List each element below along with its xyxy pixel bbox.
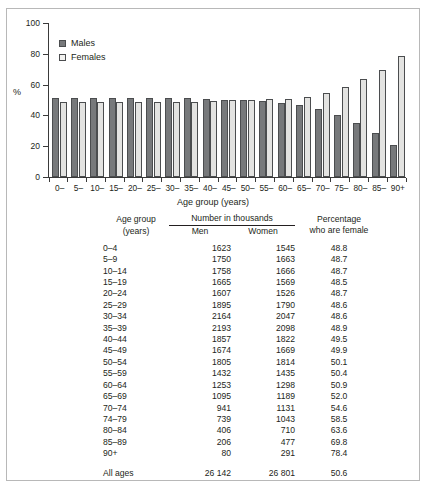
header-age-group-unit: (years) xyxy=(103,226,169,238)
table-row: 55–591432143550.4 xyxy=(103,368,383,379)
table-row: 5–91750166348.7 xyxy=(103,254,383,265)
table-row: 30–342164204748.6 xyxy=(103,311,383,322)
cell-women: 1545 xyxy=(231,243,295,254)
y-tick xyxy=(43,177,48,178)
cell-percentage: 49.5 xyxy=(295,334,383,345)
bar-male xyxy=(184,98,191,177)
cell-percentage: 48.8 xyxy=(295,243,383,254)
cell-men: 1623 xyxy=(169,243,231,254)
cell-women: 1435 xyxy=(231,368,295,379)
bar-female xyxy=(154,102,161,177)
bar-female xyxy=(323,93,330,177)
female-swatch-icon xyxy=(59,54,66,61)
y-tick-label: 100 xyxy=(7,19,40,28)
cell-men: 739 xyxy=(169,414,231,425)
header-number-in-thousands: Number in thousands xyxy=(169,213,295,226)
bar-male xyxy=(203,99,210,177)
bar-group xyxy=(389,23,408,177)
cell-age: 15–19 xyxy=(103,277,169,288)
cell-percentage: 48.5 xyxy=(295,277,383,288)
bar-group xyxy=(277,23,296,177)
cell-age: 20–24 xyxy=(103,288,169,299)
bar-group xyxy=(202,23,221,177)
cell-men: 1805 xyxy=(169,357,231,368)
table-row: 25–291895179048.6 xyxy=(103,300,383,311)
male-swatch-icon xyxy=(59,40,66,47)
cell-age: 55–59 xyxy=(103,368,169,379)
bar-female xyxy=(285,99,292,177)
x-tick xyxy=(161,178,162,182)
legend-label-males: Males xyxy=(71,38,95,48)
x-tick xyxy=(368,178,369,182)
bar-female xyxy=(304,97,311,177)
header-age-group: Age group xyxy=(103,213,169,226)
cell-women: 2098 xyxy=(231,323,295,334)
cell-percentage: 78.4 xyxy=(295,448,383,459)
x-tick xyxy=(312,178,313,182)
bar-male xyxy=(240,100,247,177)
table-row: 85–8920647769.8 xyxy=(103,437,383,448)
cell-women: 1569 xyxy=(231,277,295,288)
table-row: 90+8029178.4 xyxy=(103,448,383,459)
cell-percentage: 63.6 xyxy=(295,425,383,436)
cell-age: 74–79 xyxy=(103,414,169,425)
bar-female xyxy=(79,102,86,177)
table-row: 74–79739104358.5 xyxy=(103,414,383,425)
x-tick xyxy=(274,178,275,182)
cell-percentage: 69.8 xyxy=(295,437,383,448)
cell-age: 65–69 xyxy=(103,391,169,402)
bar-group xyxy=(220,23,239,177)
table-row: 50–541805181450.1 xyxy=(103,357,383,368)
y-axis-label: % xyxy=(13,87,21,97)
table-row: 0–41623154548.8 xyxy=(103,243,383,254)
bar-male xyxy=(109,98,116,177)
cell-percentage: 48.9 xyxy=(295,323,383,334)
cell-women: 1043 xyxy=(231,414,295,425)
bar-group xyxy=(258,23,277,177)
x-tick xyxy=(49,178,50,182)
x-tick xyxy=(67,178,68,182)
x-tick xyxy=(406,178,407,182)
cell-women: 1822 xyxy=(231,334,295,345)
table-row: 10–141758166648.7 xyxy=(103,266,383,277)
cell-age: All ages xyxy=(103,468,169,479)
bar-female xyxy=(173,102,180,177)
cell-age: 45–49 xyxy=(103,345,169,356)
bar-group xyxy=(314,23,333,177)
cell-women: 1526 xyxy=(231,288,295,299)
cell-men: 2193 xyxy=(169,323,231,334)
cell-percentage: 50.4 xyxy=(295,368,383,379)
cell-women: 1298 xyxy=(231,380,295,391)
cell-women: 1666 xyxy=(231,266,295,277)
bar-male xyxy=(259,101,266,177)
x-axis xyxy=(48,177,406,178)
cell-women: 1131 xyxy=(231,403,295,414)
x-tick xyxy=(199,178,200,182)
header-percentage-line2: who are female xyxy=(295,225,383,236)
bar-male xyxy=(221,100,228,177)
table-row: 65–691095118952.0 xyxy=(103,391,383,402)
cell-percentage: 50.6 xyxy=(295,468,383,479)
cell-percentage: 49.9 xyxy=(295,345,383,356)
bar-female xyxy=(135,102,142,177)
table-row: 70–74941113154.6 xyxy=(103,403,383,414)
x-tick xyxy=(293,178,294,182)
table-row: 15–191665156948.5 xyxy=(103,277,383,288)
figure-panel: 020406080100 % 0–5–10–15–20–25–30–35–40–… xyxy=(6,8,420,481)
cell-percentage: 54.6 xyxy=(295,403,383,414)
bar-male xyxy=(315,109,322,177)
x-tick xyxy=(105,178,106,182)
cell-men: 206 xyxy=(169,437,231,448)
x-axis-title: Age group (years) xyxy=(7,197,419,207)
bar-male xyxy=(165,98,172,177)
bar-female xyxy=(229,100,236,177)
bar-male xyxy=(278,103,285,177)
cell-percentage: 50.9 xyxy=(295,380,383,391)
y-tick-label: 0 xyxy=(7,173,40,182)
table-row: 40–441857182249.5 xyxy=(103,334,383,345)
x-tick xyxy=(349,178,350,182)
header-percentage-line1: Percentage xyxy=(295,214,383,225)
bar-male xyxy=(372,133,379,177)
bar-group xyxy=(108,23,127,177)
bar-male xyxy=(334,115,341,177)
